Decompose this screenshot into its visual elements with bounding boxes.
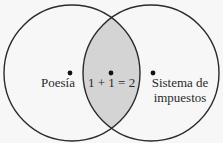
right-set-label-line1: Sistema de <box>150 75 210 90</box>
venn-diagram <box>0 0 223 143</box>
right-set-label-line2: impuestos <box>150 90 210 105</box>
left-set-label: Poesía <box>41 75 75 90</box>
intersection-label: 1 + 1 = 2 <box>88 75 135 90</box>
